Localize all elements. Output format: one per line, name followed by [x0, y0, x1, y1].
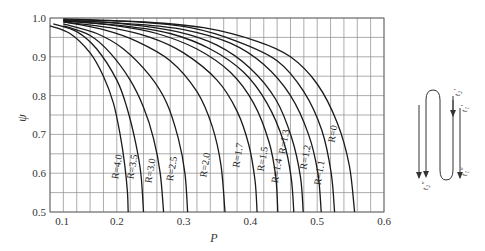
x-tick-label: 0.6	[377, 215, 391, 227]
curve-label: R=1.5	[255, 146, 270, 172]
chart-curves	[50, 19, 355, 212]
y-tick-label: 0.6	[32, 167, 46, 179]
curve-label: R=0	[326, 124, 340, 143]
curve-label: R=3.0	[143, 157, 158, 183]
label-t2-in: t₂′	[453, 89, 462, 96]
x-axis-label: P	[209, 231, 218, 245]
curve-R-1-7	[63, 22, 257, 212]
y-axis-label: ψ	[15, 114, 29, 122]
x-tick-label: 0.5	[310, 215, 324, 227]
curve-label: R=1.4	[269, 157, 284, 183]
y-tick-label: 0.9	[32, 51, 46, 63]
serpentine-tube	[426, 90, 453, 180]
y-tick-label: 1.0	[32, 12, 46, 24]
x-tick-label: 0.3	[177, 215, 191, 227]
curve-label: R=4.0	[109, 154, 124, 180]
x-tick-label: 0.2	[110, 215, 124, 227]
y-tick-label: 0.8	[32, 90, 46, 102]
label-t1-in: t₁′	[460, 105, 469, 112]
curve-label: R=1.7	[230, 142, 245, 168]
curve-R-1-2	[63, 20, 321, 212]
y-tick-label: 0.5	[32, 206, 46, 218]
x-tick-label: 0.1	[55, 215, 69, 227]
y-tick-label: 0.7	[32, 128, 46, 140]
correction-factor-chart: R=4.0R=3.5R=3.0R=2.5R=2.0R=1.7R=1.5R=1.4…	[0, 0, 485, 251]
curve-label: R=1.2	[297, 144, 312, 170]
arrow-down-icon	[416, 172, 422, 179]
axis-ticks: 0.10.20.30.40.50.60.50.60.70.80.91.0	[32, 12, 391, 227]
curve-R-2-5	[63, 24, 187, 212]
curve-label: R=2.5	[164, 156, 179, 182]
x-tick-label: 0.4	[244, 215, 258, 227]
arrow-down-icon	[423, 171, 429, 178]
curve-R-3-0	[63, 26, 163, 212]
label-t1-out: t₁″	[460, 167, 469, 176]
curve-R-1-1	[63, 20, 334, 212]
curve-label: R=3.5	[124, 154, 139, 180]
curve-R-1-5	[63, 21, 277, 212]
flow-diagram: t₂′ t₁′ t₁″ t₂″	[416, 89, 469, 190]
label-t2-out: t₂″	[421, 181, 430, 190]
curve-label: R=1.3	[276, 128, 291, 154]
curve-label: R=1.1	[312, 159, 327, 185]
arrow-down-icon	[450, 110, 456, 117]
